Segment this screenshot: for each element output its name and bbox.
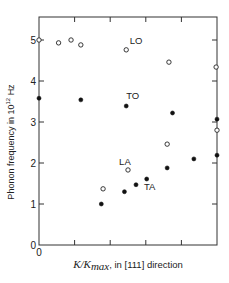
y-tick-label: 0	[30, 240, 36, 251]
series-label-lo: LO	[130, 35, 143, 46]
data-point-ta	[192, 157, 196, 161]
y-tick-label: 5	[30, 35, 36, 46]
data-point-la	[165, 142, 169, 146]
data-points	[37, 38, 219, 206]
data-point-la	[126, 168, 130, 172]
data-point-to	[37, 96, 41, 100]
data-point-to	[215, 117, 219, 121]
data-point-lo	[79, 43, 83, 47]
data-point-lo	[56, 41, 60, 45]
data-point-ta	[122, 190, 126, 194]
data-point-lo	[69, 38, 73, 42]
data-point-lo	[37, 38, 41, 42]
y-tick-label: 1	[30, 199, 36, 210]
data-point-la	[101, 187, 105, 191]
data-point-ta	[99, 202, 103, 206]
series-labels: LOTOLATA	[119, 35, 156, 192]
y-axis-label: Phonon frequency in 1012 Hz	[5, 84, 16, 200]
data-point-ta	[134, 183, 138, 187]
x-axis-label: K/Kmax, in [111] direction	[72, 258, 183, 272]
phonon-dispersion-chart: 0012345 LOTOLATA Phonon frequency in 101…	[0, 0, 229, 283]
x-axis-label-sub: max	[91, 260, 109, 272]
data-point-to	[124, 104, 128, 108]
y-axis-label-post: Hz	[6, 84, 16, 98]
data-point-to	[171, 111, 175, 115]
data-point-lo	[124, 48, 128, 52]
data-point-la	[215, 128, 219, 132]
data-point-to	[79, 98, 83, 102]
x-axis-label-italic: K/K	[72, 258, 91, 270]
x-tick-label: 0	[36, 247, 42, 258]
data-point-ta	[165, 166, 169, 170]
y-tick-label: 4	[30, 76, 36, 87]
data-point-lo	[214, 65, 218, 69]
y-tick-label: 3	[30, 117, 36, 128]
series-label-to: TO	[126, 90, 139, 101]
y-axis-label-pre: Phonon frequency in 10	[6, 105, 16, 200]
axis-ticks: 0012345	[30, 17, 217, 258]
data-point-lo	[167, 60, 171, 64]
series-label-ta: TA	[144, 181, 156, 192]
series-label-la: LA	[119, 156, 131, 167]
y-tick-label: 2	[30, 158, 36, 169]
data-point-ta	[215, 153, 219, 157]
x-axis-label-rest: , in [111] direction	[109, 259, 183, 270]
